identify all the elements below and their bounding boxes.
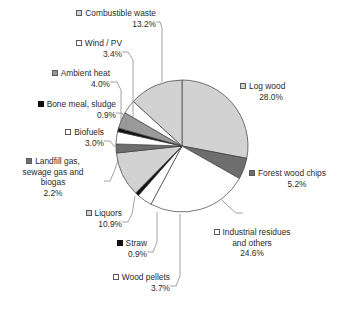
leader-line-straw <box>147 212 157 252</box>
leader-line-landfill-gas <box>104 160 118 181</box>
leader-line-wood-pellets <box>170 214 180 286</box>
pie-slice-log-wood[interactable] <box>182 80 248 158</box>
pie-chart-canvas <box>0 0 350 311</box>
pie-chart-figure: Combustible waste 13.2% Wind / PV 3.4% A… <box>0 0 350 311</box>
leader-line-biofuels <box>104 141 117 146</box>
leader-line-industrial-residues <box>222 200 243 213</box>
pie-slices-group <box>116 80 248 212</box>
leader-line-liquors <box>122 196 135 222</box>
leader-line-ambient-heat <box>110 82 121 124</box>
leader-line-combustible-waste <box>156 22 162 82</box>
